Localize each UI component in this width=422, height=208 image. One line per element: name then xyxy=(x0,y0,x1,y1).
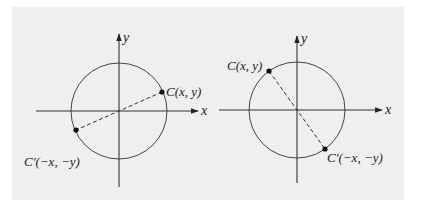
point-c-prime xyxy=(73,127,78,132)
point-c-label: C(x, y) xyxy=(166,84,201,99)
point-c-prime-label: C′(−x, −y) xyxy=(327,150,383,165)
y-axis-label: y xyxy=(299,31,308,46)
point-c xyxy=(266,68,271,73)
point-c-prime-label: C′(−x, −y) xyxy=(24,154,80,169)
symmetry-diagrams: x y C(x, y) C′(−x, −y) x y C(x, y) C′(−x… xyxy=(0,0,422,208)
x-axis-label: x xyxy=(200,103,208,118)
point-c xyxy=(159,89,164,94)
left-diagram: x y C(x, y) C′(−x, −y) xyxy=(24,30,208,187)
y-axis-label: y xyxy=(121,30,130,45)
point-c-label: C(x, y) xyxy=(227,58,262,73)
x-axis-label: x xyxy=(384,102,392,117)
right-diagram: x y C(x, y) C′(−x, −y) xyxy=(219,31,392,183)
